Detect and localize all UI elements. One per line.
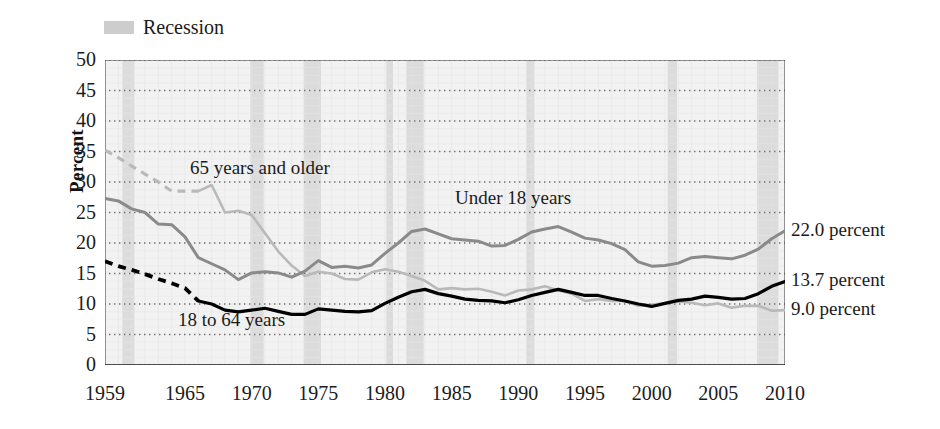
series-label-under-18: Under 18 years — [455, 188, 571, 208]
y-tick-label: 35 — [52, 141, 96, 161]
series-label-18-to-64: 18 to 64 years — [178, 310, 285, 330]
x-axis-tick-labels: 1959196519701975198019851990199520002005… — [0, 382, 940, 412]
x-tick-label: 1985 — [416, 382, 488, 404]
x-tick-label: 1965 — [149, 382, 221, 404]
y-tick-label: 5 — [52, 324, 96, 344]
x-tick-label: 1980 — [349, 382, 421, 404]
x-tick-label: 2000 — [616, 382, 688, 404]
x-tick-label: 1990 — [482, 382, 554, 404]
poverty-rate-chart: Recession Percent 50454035302520151050 1… — [0, 0, 940, 429]
recession-swatch-icon — [104, 21, 134, 34]
y-tick-label: 30 — [52, 171, 96, 191]
end-label-18-to-64: 13.7 percent — [791, 270, 885, 290]
y-tick-label: 10 — [52, 293, 96, 313]
legend-label-recession: Recession — [143, 17, 224, 37]
x-tick-label: 2010 — [749, 382, 821, 404]
y-tick-label: 50 — [52, 49, 96, 69]
y-tick-label: 15 — [52, 263, 96, 283]
y-tick-label: 0 — [52, 354, 96, 374]
y-tick-label: 40 — [52, 110, 96, 130]
x-tick-label: 1995 — [549, 382, 621, 404]
y-axis-tick-labels: 50454035302520151050 — [48, 0, 96, 429]
x-tick-label: 1970 — [216, 382, 288, 404]
x-tick-label: 1975 — [282, 382, 354, 404]
chart-legend: Recession — [104, 17, 224, 37]
y-tick-label: 45 — [52, 80, 96, 100]
y-tick-label: 20 — [52, 232, 96, 252]
series-label-65-and-older: 65 years and older — [190, 158, 330, 178]
y-tick-label: 25 — [52, 202, 96, 222]
end-label-65-and-older: 9.0 percent — [791, 299, 875, 319]
x-tick-label: 2005 — [682, 382, 754, 404]
x-tick-label: 1959 — [69, 382, 141, 404]
end-label-under-18: 22.0 percent — [791, 220, 885, 240]
